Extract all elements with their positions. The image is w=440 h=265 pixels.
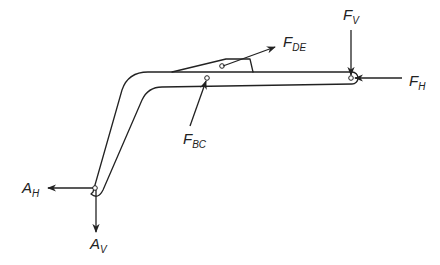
label-a-h: AH (22, 180, 39, 199)
member-outline (91, 59, 358, 196)
arrow-f-bc (190, 81, 206, 126)
arrow-f-de (223, 47, 275, 66)
label-f-de: FDE (283, 34, 306, 53)
diagram-canvas (0, 0, 440, 265)
label-f-bc: FBC (183, 131, 206, 150)
pin-bc (205, 76, 210, 81)
label-a-v: AV (90, 236, 107, 255)
label-f-h: FH (409, 73, 425, 92)
pin-a (93, 186, 98, 191)
pin-right (349, 76, 354, 81)
label-f-v: FV (343, 7, 359, 26)
